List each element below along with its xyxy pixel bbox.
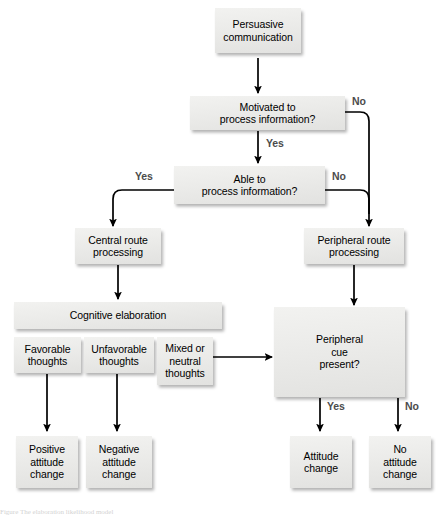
node-label: Cognitive elaboration bbox=[70, 309, 167, 321]
node-label: Motivated to process information? bbox=[220, 101, 315, 126]
figure-caption: Figure The elaboration likelihood model bbox=[0, 508, 443, 515]
node-label: Central route processing bbox=[88, 234, 147, 259]
node-label: No attitude change bbox=[383, 443, 417, 480]
edge-label-able-no: No bbox=[332, 170, 346, 182]
node-positive-attitude-change: Positive attitude change bbox=[16, 436, 78, 488]
node-peripheral-cue-present: Peripheral cue present? bbox=[274, 307, 405, 397]
edge-able-no bbox=[325, 190, 369, 214]
node-label: Peripheral cue present? bbox=[316, 333, 363, 370]
node-label: Positive attitude change bbox=[29, 443, 65, 480]
node-no-attitude-change: No attitude change bbox=[369, 436, 431, 488]
node-attitude-change: Attitude change bbox=[290, 436, 352, 488]
node-label: Attitude change bbox=[304, 450, 339, 475]
edge-label-able-yes: Yes bbox=[135, 170, 153, 182]
node-mixed-neutral-thoughts: Mixed or neutral thoughts bbox=[157, 337, 213, 385]
node-favorable-thoughts: Favorable thoughts bbox=[14, 337, 81, 373]
edge-label-cue-no: No bbox=[405, 400, 419, 412]
edge-label-cue-yes: Yes bbox=[327, 400, 345, 412]
node-label: Persuasive communication bbox=[223, 18, 292, 43]
node-central-route-processing: Central route processing bbox=[75, 228, 161, 264]
node-peripheral-route-processing: Peripheral route processing bbox=[304, 228, 404, 264]
edge-label-motivated-no: No bbox=[352, 95, 366, 107]
node-label: Negative attitude change bbox=[99, 443, 140, 480]
node-negative-attitude-change: Negative attitude change bbox=[86, 436, 152, 488]
node-motivated-to-process: Motivated to process information? bbox=[190, 96, 345, 130]
node-cognitive-elaboration: Cognitive elaboration bbox=[14, 302, 222, 329]
edge-motivated-no bbox=[345, 112, 369, 226]
node-unfavorable-thoughts: Unfavorable thoughts bbox=[84, 337, 154, 373]
edge-label-motivated-yes: Yes bbox=[266, 137, 284, 149]
node-label: Favorable thoughts bbox=[25, 343, 71, 368]
node-persuasive-communication: Persuasive communication bbox=[215, 8, 301, 53]
node-label: Peripheral route processing bbox=[317, 234, 390, 259]
node-label: Mixed or neutral thoughts bbox=[165, 342, 204, 379]
node-able-to-process: Able to process information? bbox=[174, 166, 325, 204]
node-label: Unfavorable thoughts bbox=[91, 343, 147, 368]
node-label: Able to process information? bbox=[202, 173, 297, 198]
